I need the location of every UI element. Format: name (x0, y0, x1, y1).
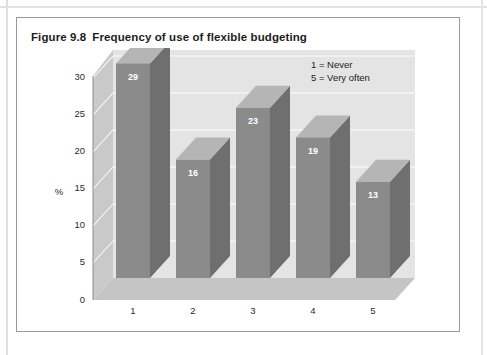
x-axis-ticks: 1 2 3 4 5 (130, 305, 375, 316)
figure-title-text: Frequency of use of flexible budgeting (92, 31, 307, 43)
page-edge-right (481, 0, 483, 355)
bar-group-1[interactable]: 29 (116, 48, 170, 278)
bar-4-value: 19 (308, 146, 318, 156)
y-tick-15: 15 (74, 182, 85, 193)
chart-floor (93, 278, 415, 300)
bar-group-5[interactable]: 13 (356, 160, 410, 278)
y-tick-10: 10 (74, 219, 85, 230)
y-tick-20: 20 (74, 145, 85, 156)
x-tick-4: 4 (310, 305, 315, 316)
x-tick-2: 2 (190, 305, 195, 316)
bar-4-side (330, 115, 350, 278)
bar-5-value: 13 (368, 190, 378, 200)
y-tick-25: 25 (74, 108, 85, 119)
bar-2-value: 16 (188, 168, 198, 178)
bar-2-side (210, 138, 230, 278)
figure-box: Figure 9.8Frequency of use of flexible b… (16, 17, 460, 332)
bar-3-front (236, 108, 270, 278)
bar-1-front (116, 63, 150, 278)
y-tick-0: 0 (80, 294, 85, 305)
legend-line-1: 1 = Never (311, 59, 352, 70)
bar-3-value: 23 (248, 116, 258, 126)
bar-chart: 30 25 20 15 10 5 0 % 29 16 (17, 48, 461, 320)
page-edge-left (6, 0, 8, 355)
x-tick-3: 3 (250, 305, 255, 316)
bar-group-3[interactable]: 23 (236, 86, 290, 278)
y-axis-ticks: 30 25 20 15 10 5 0 (74, 71, 85, 305)
bar-group-4[interactable]: 19 (296, 115, 350, 278)
bar-4-front (296, 137, 330, 278)
legend-line-2: 5 = Very often (311, 72, 370, 83)
y-axis-title: % (55, 186, 64, 197)
bar-1-value: 29 (128, 72, 138, 82)
x-tick-1: 1 (130, 305, 135, 316)
page-edge-top (0, 6, 487, 8)
chart-left-wall (93, 50, 113, 300)
bar-3-side (270, 86, 290, 278)
page-title: Figure 9.8Frequency of use of flexible b… (31, 31, 307, 43)
bar-1-side (150, 48, 170, 278)
bar-group-2[interactable]: 16 (176, 138, 230, 278)
x-tick-5: 5 (370, 305, 375, 316)
figure-number: Figure 9.8 (31, 31, 86, 43)
y-tick-30: 30 (74, 71, 85, 82)
y-tick-5: 5 (80, 256, 85, 267)
